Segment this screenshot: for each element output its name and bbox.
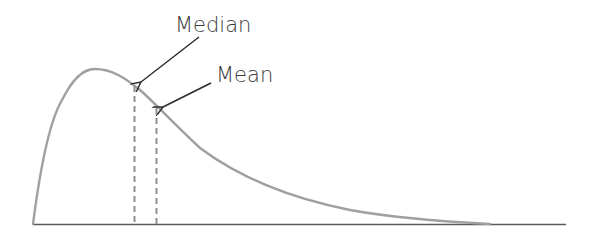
distribution-curve — [33, 69, 490, 224]
mean-label: Mean — [216, 63, 273, 87]
median-arrow-icon — [141, 37, 199, 82]
median-label: Median — [175, 13, 251, 37]
skewed-distribution-diagram: Median Mean — [0, 0, 598, 241]
mean-arrow-icon — [163, 83, 211, 107]
